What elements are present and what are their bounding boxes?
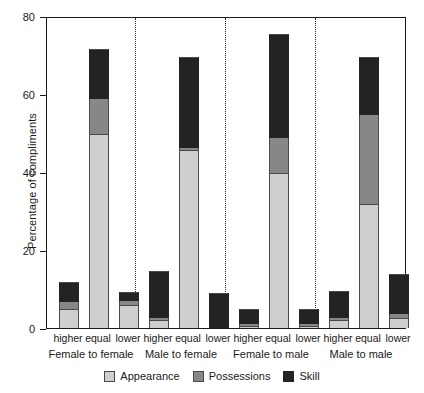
legend-label-skill: Skill	[299, 370, 319, 382]
bar-segment-skill	[389, 274, 409, 315]
chart-legend: Appearance Possessions Skill	[0, 370, 424, 382]
bar-segment-appearance	[389, 318, 409, 328]
bar-female-to-male-lower	[299, 309, 319, 328]
legend-label-appearance: Appearance	[120, 370, 179, 382]
bar-segment-skill	[329, 291, 349, 318]
bar-segment-appearance	[149, 320, 169, 328]
bar-segment-skill	[359, 57, 379, 115]
group-separator-3	[315, 18, 316, 328]
y-tick-label-20: 20	[0, 246, 35, 256]
y-tick-mark-0	[40, 329, 46, 330]
legend-label-possessions: Possessions	[209, 370, 271, 382]
bar-segment-possessions	[359, 115, 379, 204]
stacked-bar-chart: Percentage of compliments 80 60 40 20 0 …	[0, 0, 424, 393]
legend-item-skill: Skill	[283, 370, 319, 382]
y-tick-label-40: 40	[0, 168, 35, 178]
bar-segment-appearance	[269, 173, 289, 328]
bar-male-to-female-equal	[179, 57, 199, 328]
legend-swatch-possessions-icon	[193, 371, 204, 382]
bar-segment-skill	[209, 293, 229, 328]
bar-female-to-female-higher	[59, 282, 79, 328]
bar-segment-possessions	[269, 138, 289, 173]
y-tick-label-0: 0	[0, 324, 35, 334]
y-axis-label: Percentage of compliments	[26, 71, 38, 291]
bar-female-to-female-lower	[119, 292, 139, 328]
plot-area	[46, 17, 406, 329]
bar-male-to-male-equal	[359, 57, 379, 328]
bar-segment-appearance	[299, 326, 319, 328]
bar-segment-appearance	[59, 309, 79, 328]
y-tick-label-80: 80	[0, 12, 35, 22]
bar-segment-appearance	[89, 134, 109, 328]
bar-male-to-female-higher	[149, 271, 169, 328]
bar-male-to-male-lower	[389, 274, 409, 328]
group-separator-2	[225, 18, 226, 328]
legend-swatch-skill-icon	[283, 371, 294, 382]
bar-segment-skill	[239, 309, 259, 325]
x-group-label-male-to-male: Male to male	[306, 348, 416, 360]
bar-male-to-male-higher	[329, 291, 349, 328]
legend-item-appearance: Appearance	[104, 370, 179, 382]
group-separator-1	[135, 18, 136, 328]
bar-segment-possessions	[89, 99, 109, 134]
bar-female-to-male-equal	[269, 34, 289, 329]
bar-segment-appearance	[359, 204, 379, 328]
bar-segment-skill	[149, 271, 169, 318]
legend-swatch-appearance-icon	[104, 371, 115, 382]
x-tick-label-male-to-male-lower: lower	[376, 332, 420, 344]
y-tick-label-60: 60	[0, 90, 35, 100]
bar-male-to-female-lower	[209, 293, 229, 328]
bar-segment-skill	[179, 57, 199, 148]
bar-segment-skill	[59, 282, 79, 303]
plot-inner	[47, 18, 405, 328]
bar-segment-appearance	[239, 326, 259, 328]
bar-segment-skill	[299, 309, 319, 325]
bar-segment-appearance	[119, 305, 139, 328]
bar-segment-skill	[119, 292, 139, 301]
bar-segment-appearance	[329, 320, 349, 328]
legend-item-possessions: Possessions	[193, 370, 271, 382]
bar-segment-appearance	[179, 150, 199, 328]
bar-segment-skill	[269, 34, 289, 139]
bar-female-to-male-higher	[239, 309, 259, 328]
bar-segment-skill	[89, 49, 109, 99]
bar-segment-possessions	[59, 302, 79, 309]
bar-female-to-female-equal	[89, 49, 109, 328]
